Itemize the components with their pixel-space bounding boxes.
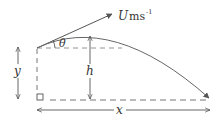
velocity-unit-label: ms — [129, 10, 145, 23]
right-angle-marker — [37, 94, 43, 100]
y-label: y — [13, 64, 21, 78]
projectile-diagram: U ms -1 θ h y x — [0, 0, 218, 120]
velocity-symbol-label: U — [118, 9, 129, 23]
velocity-unit-exponent: -1 — [146, 8, 152, 16]
h-label: h — [86, 64, 94, 78]
x-label: x — [116, 103, 123, 117]
diagram-canvas: U ms -1 θ h y x — [0, 0, 218, 120]
angle-theta-label: θ — [59, 37, 66, 50]
